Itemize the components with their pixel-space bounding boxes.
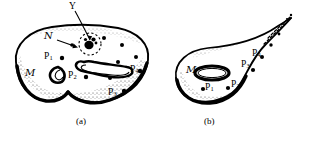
scatter-dot-b-2 xyxy=(278,33,281,36)
label-n: N xyxy=(44,31,52,41)
label-p3-a: P3 xyxy=(108,88,117,98)
y-blob xyxy=(84,41,93,49)
point-p1-dot-a xyxy=(60,56,64,60)
y-blob-dot-1 xyxy=(91,37,95,41)
manifold-figure-drawing xyxy=(0,0,310,141)
label-p2-a: P2 xyxy=(68,71,77,81)
caption-a: (a) xyxy=(76,117,86,126)
label-y: Y xyxy=(69,2,76,12)
scatter-dot-a-2 xyxy=(120,43,124,47)
tail-dot-3 xyxy=(282,23,284,25)
scatter-dot-a-6 xyxy=(70,43,74,47)
caption-b: (b) xyxy=(204,117,215,126)
manifold-a-hole-left xyxy=(50,67,65,83)
label-p2-b: P2 xyxy=(231,80,240,90)
label-m-a: M xyxy=(25,68,35,78)
scatter-dot-b-1 xyxy=(269,43,272,46)
scatter-dot-a-3 xyxy=(134,55,138,59)
label-p1-a: P1 xyxy=(44,52,53,62)
point-p2-dot-b xyxy=(226,86,230,90)
point-p3-dot-b xyxy=(251,68,255,72)
label-m-b: M xyxy=(186,65,196,75)
scatter-dot-a-4 xyxy=(116,60,120,64)
panel-b-drawing xyxy=(170,14,300,111)
figure-root: Y N M P1 P2 P3 P4 M P1 P2 P3 P4 (a) (b) xyxy=(0,0,310,141)
point-p3-dot-a xyxy=(122,89,126,93)
label-p4-a: P4 xyxy=(130,65,139,75)
point-p2-dot-a xyxy=(84,75,88,79)
scatter-dot-a-1 xyxy=(102,36,106,40)
scatter-dot-a-5 xyxy=(108,76,112,80)
y-blob-dot-2 xyxy=(84,38,87,41)
y-blob-dot-3 xyxy=(95,42,98,45)
tail-dot-1 xyxy=(290,14,292,16)
tail-dot-2 xyxy=(286,18,288,20)
label-p3-b: P3 xyxy=(241,60,250,70)
label-p4-b: P4 xyxy=(252,49,261,59)
manifold-b-hole-inner xyxy=(198,68,226,77)
label-p1-b: P1 xyxy=(205,83,214,93)
